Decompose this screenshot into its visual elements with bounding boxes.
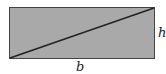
height-label: h [158,26,166,39]
base-label: b [76,60,84,73]
